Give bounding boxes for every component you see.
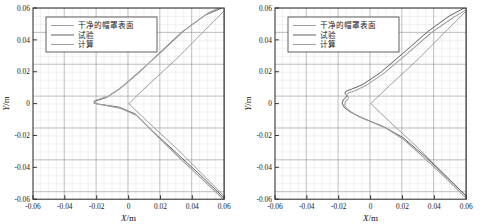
y-tick-label: -0.04 [15,163,31,172]
y-tick-label: -0.06 [257,195,273,204]
x-tick-label: 0 [127,202,131,211]
legend-label-experiment: 试验 [320,30,336,40]
chart-panel-right: -0.06 -0.04 -0.02 0 0.02 0.04 0.06 0.06 … [242,0,484,224]
x-axis-title-unit: /m [127,213,137,223]
x-tick-label: -0.02 [89,202,105,211]
x-tick-label: -0.02 [331,202,347,211]
x-tick-label: 0.04 [186,202,199,211]
x-tick-label: -0.04 [57,202,73,211]
x-tick-label: 0.04 [428,202,441,211]
y-tick-label: -0.02 [257,131,273,140]
y-tick-label: 0 [26,99,30,108]
x-tick-label: 0.06 [218,202,231,211]
figure-container: -0.06 -0.04 -0.02 0 0.02 0.04 0.06 0.06 … [0,0,484,224]
y-axis-title-unit: /m [243,96,253,106]
y-tick-label: 0.02 [17,67,30,76]
y-tick-label: 0 [268,99,272,108]
x-tick-label: 0.02 [396,202,409,211]
y-tick-label: 0.02 [259,67,272,76]
x-tick-label: 0.02 [154,202,167,211]
legend: 干净的帽罩表面 试验 计算 [46,17,157,52]
y-tick-label: -0.06 [15,195,31,204]
x-tick-label: 0 [369,202,373,211]
y-axis-title-unit: /m [1,96,11,106]
chart-svg-right: -0.06 -0.04 -0.02 0 0.02 0.04 0.06 0.06 … [242,0,484,224]
legend-label-calculation: 计算 [320,39,336,49]
x-tick-label: -0.04 [299,202,315,211]
chart-panel-left: -0.06 -0.04 -0.02 0 0.02 0.04 0.06 0.06 … [0,0,242,224]
x-axis-title-unit: /m [369,213,379,223]
y-tick-label: 0.04 [259,36,272,45]
y-tick-label: 0.06 [259,4,272,13]
legend: 干净的帽罩表面 试验 计算 [288,17,399,52]
x-axis-title: X/m [120,213,136,223]
chart-svg-left: -0.06 -0.04 -0.02 0 0.02 0.04 0.06 0.06 … [0,0,242,224]
x-tick-label: 0.06 [460,202,473,211]
x-axis-title: X/m [362,213,378,223]
y-tick-label: 0.06 [17,4,30,13]
legend-label-calculation: 计算 [78,39,94,49]
legend-label-experiment: 试验 [78,30,94,40]
legend-label-clean-surface: 干净的帽罩表面 [320,20,376,30]
y-tick-label: -0.02 [15,131,31,140]
y-tick-label: 0.04 [17,36,30,45]
y-axis-title: Y/m [243,96,253,111]
y-axis-title: Y/m [1,96,11,111]
y-tick-label: -0.04 [257,163,273,172]
legend-label-clean-surface: 干净的帽罩表面 [78,20,134,30]
